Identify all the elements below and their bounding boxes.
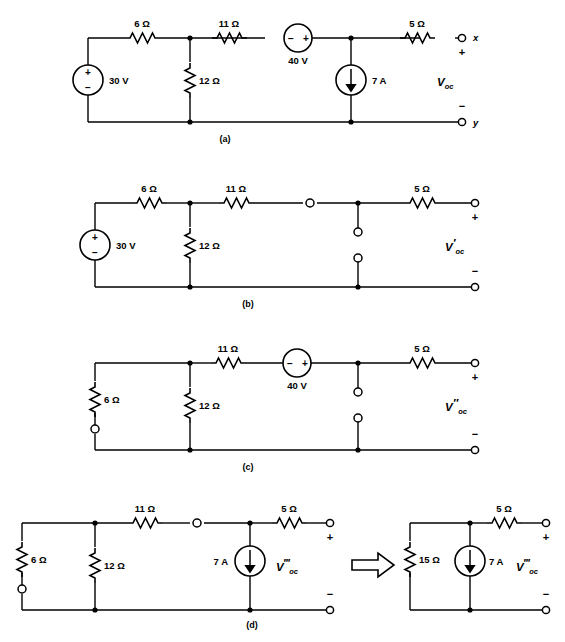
node-dot: [187, 284, 192, 289]
polarity-plus: +: [327, 531, 333, 543]
voltage-source-40v-label: 40 V: [287, 380, 307, 391]
voltage-source-40v-label: 40 V: [288, 55, 308, 66]
resistor-12ohm-label: 12 Ω: [104, 560, 125, 571]
source-minus-sign: −: [85, 82, 91, 93]
terminal-negative: [542, 606, 549, 613]
polarity-plus: +: [472, 371, 478, 383]
panel-a: 6 Ω + − 30 V 12 Ω 11 Ω − + 40 V: [73, 18, 479, 144]
resistor-12ohm: 12 Ω: [185, 62, 220, 98]
voltage-source-30v: + − 30 V: [80, 230, 136, 260]
resistor-5ohm: 5 Ω: [487, 503, 522, 528]
terminal-positive: [542, 519, 549, 526]
wire: [95, 363, 475, 450]
svg-text:V‴oc: V‴oc: [516, 557, 539, 576]
open-terminal-voltage-source-shorted: [18, 585, 26, 593]
node-dot: [187, 35, 192, 40]
resistor-12ohm: 12 Ω: [185, 227, 220, 263]
resistor-11ohm-label: 11 Ω: [135, 503, 156, 514]
resistor-5ohm: 5 Ω: [405, 343, 440, 368]
resistor-6ohm-label: 6 Ω: [31, 554, 47, 565]
resistor-5ohm-label: 5 Ω: [281, 503, 297, 514]
resistor-12ohm-label: 12 Ω: [199, 400, 220, 411]
resistor-5ohm-label: 5 Ω: [414, 183, 430, 194]
node-dot: [348, 35, 353, 40]
voltage-source-40v: − + 40 V: [284, 24, 312, 66]
node-dot: [92, 607, 97, 612]
resistor-11ohm-label: 11 Ω: [226, 183, 247, 194]
terminal-negative: [471, 446, 478, 453]
terminal-positive: [326, 519, 333, 526]
wire: [88, 38, 462, 122]
panel-caption-c: (c): [243, 462, 254, 472]
resistor-6ohm: 6 Ω: [132, 183, 167, 208]
resistor-15ohm-label: 15 Ω: [419, 554, 440, 565]
resistor-11ohm: 11 Ω: [211, 343, 246, 368]
resistor-6ohm: 6 Ω: [17, 541, 47, 577]
source-minus-sign: −: [92, 247, 98, 258]
current-source-7a-label: 7 A: [214, 556, 229, 567]
current-source-7a: 7 A: [214, 546, 265, 576]
resistor-12ohm-label: 12 Ω: [199, 240, 220, 251]
voltage-source-30v-label: 30 V: [109, 75, 129, 86]
terminal-negative: [471, 283, 478, 290]
node-dot: [355, 447, 360, 452]
resistor-11ohm-label: 11 Ω: [219, 18, 240, 29]
node-dot: [355, 284, 360, 289]
resistor-11ohm-label: 11 Ω: [218, 343, 239, 354]
svg-text:V″oc: V″oc: [445, 397, 468, 416]
source-plus-sign: +: [302, 358, 308, 369]
output-voltage-label: V‴oc: [516, 557, 539, 576]
node-dot: [467, 520, 472, 525]
implication-arrow-icon: [352, 553, 394, 577]
current-source-7a-label: 7 A: [372, 75, 387, 86]
resistor-6ohm-label: 6 Ω: [141, 183, 157, 194]
voc-subscript: oc: [458, 407, 468, 416]
svg-text:V‴oc: V‴oc: [276, 557, 299, 576]
resistor-6ohm: 6 Ω: [90, 381, 120, 417]
terminal-positive: [471, 199, 478, 206]
resistor-15ohm: 15 Ω: [405, 541, 440, 577]
output-voltage-label: Voc: [437, 76, 454, 91]
node-dot: [355, 200, 360, 205]
open-terminal-current-source-removed-lower: [354, 414, 362, 422]
panel-b: 6 Ω + − 30 V 12 Ω 11 Ω 5 Ω: [80, 183, 479, 309]
polarity-minus: −: [459, 100, 465, 112]
voltage-source-40v: − + 40 V: [283, 349, 311, 391]
polarity-minus: −: [472, 265, 478, 277]
resistor-6ohm-label: 6 Ω: [104, 394, 120, 405]
source-minus-sign: −: [288, 33, 294, 44]
node-dot: [348, 119, 353, 124]
polarity-plus: +: [543, 531, 549, 543]
source-minus-sign: −: [287, 358, 293, 369]
open-terminal-current-source-removed-lower: [354, 254, 362, 262]
polarity-minus: −: [472, 428, 478, 440]
polarity-minus: −: [543, 588, 549, 600]
current-source-7a: 7 A: [455, 546, 504, 576]
resistor-12ohm: 12 Ω: [185, 387, 220, 423]
wire: [95, 203, 475, 287]
node-dot: [247, 520, 252, 525]
resistor-5ohm-label: 5 Ω: [409, 18, 425, 29]
current-source-7a-label: 7 A: [489, 556, 504, 567]
panel-c: 6 Ω 12 Ω 11 Ω − + 40 V 5 Ω + −: [90, 343, 479, 472]
terminal-y: [458, 118, 465, 125]
resistor-5ohm-label: 5 Ω: [496, 503, 512, 514]
polarity-plus: +: [472, 211, 478, 223]
voc-subscript: oc: [529, 567, 539, 576]
output-voltage-label: V″oc: [445, 397, 468, 416]
voc-subscript: oc: [289, 567, 299, 576]
circuit-figure: 6 Ω + − 30 V 12 Ω 11 Ω − + 40 V: [0, 0, 565, 642]
output-voltage-label: V‴oc: [276, 557, 299, 576]
svg-text:Voc: Voc: [437, 76, 454, 91]
open-terminal-current-source-removed-upper: [354, 388, 362, 396]
voc-subscript: oc: [445, 82, 455, 91]
panel-caption-b: (b): [242, 299, 254, 309]
resistor-6ohm: 6 Ω: [125, 18, 160, 43]
open-terminal-voltage-source-shorted: [91, 425, 99, 433]
voltage-source-30v: + − 30 V: [73, 65, 129, 95]
terminal-negative: [326, 606, 333, 613]
node-dot: [92, 520, 97, 525]
open-terminal-voltage-source-removed: [193, 519, 201, 527]
resistor-11ohm: 11 Ω: [219, 183, 254, 208]
resistor-11ohm: 11 Ω: [128, 503, 163, 528]
